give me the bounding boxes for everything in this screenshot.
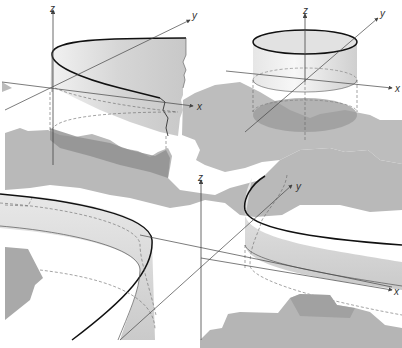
diagram-figure: z y x z y x [0,0,402,348]
axis-label-x: x [394,83,401,94]
axis-label-z: z [49,3,55,14]
diagram-canvas: z y x z y x [0,0,402,348]
axis-label-x: x [393,286,400,297]
surface-bottom-left [0,194,156,340]
axis-label-z: z [197,172,203,183]
region-top-left [2,82,402,217]
axis-label-x: x [196,101,203,112]
axis-label-z: z [302,5,308,16]
axis-label-y: y [379,8,386,19]
axis-label-y: y [191,10,198,21]
axis-label-y: y [295,181,302,192]
